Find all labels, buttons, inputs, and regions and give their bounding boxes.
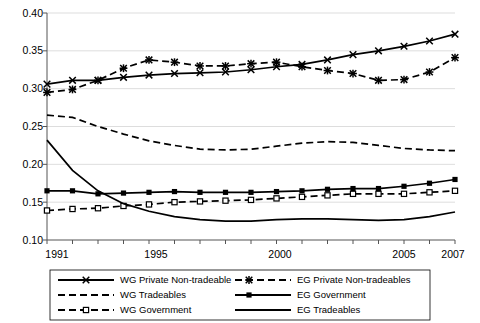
legend-swatch-wg-private-non-tradeable <box>58 277 114 284</box>
data-point-marker <box>222 62 230 70</box>
data-point-marker <box>171 58 179 66</box>
data-point-marker <box>83 307 88 312</box>
legend-item-wg-private-non-tradeable[interactable]: WG Private Non-tradeable <box>58 274 231 285</box>
data-point-marker <box>299 194 304 199</box>
legend-swatch-eg-private-non-tradeables <box>235 276 291 284</box>
legend-item-eg-private-non-tradeables[interactable]: EG Private Non-tradeables <box>235 274 411 285</box>
data-point-marker <box>95 206 100 211</box>
y-axis-labels: 0.40 0.35 0.30 0.25 0.20 0.15 0.10 <box>23 7 44 246</box>
data-point-marker <box>245 276 253 284</box>
data-point-marker <box>325 187 330 192</box>
data-point-marker <box>223 190 228 195</box>
legend-label: EG Tradeables <box>297 304 361 315</box>
data-point-marker <box>376 191 381 196</box>
data-point-marker <box>172 200 177 205</box>
data-point-marker <box>94 76 102 84</box>
data-point-marker <box>69 86 77 94</box>
data-point-marker <box>172 189 177 194</box>
series-eg-government <box>44 177 457 197</box>
data-point-marker <box>401 191 406 196</box>
data-point-marker <box>146 190 151 195</box>
legend-item-eg-tradeables[interactable]: EG Tradeables <box>235 304 361 315</box>
data-point-marker <box>401 184 406 189</box>
data-point-marker <box>44 208 49 213</box>
legend-label: WG Private Non-tradeable <box>120 274 231 285</box>
data-point-marker <box>248 190 253 195</box>
data-point-marker <box>43 89 51 97</box>
data-point-marker <box>324 67 332 75</box>
data-point-marker <box>247 60 255 68</box>
legend-label: WG Government <box>120 304 192 315</box>
data-point-marker <box>452 177 457 182</box>
data-point-marker <box>197 199 202 204</box>
data-point-marker <box>248 197 253 202</box>
data-point-marker <box>145 56 153 64</box>
data-point-marker <box>299 188 304 193</box>
legend-swatch-eg-government <box>235 292 291 297</box>
y-tick-label: 0.35 <box>23 44 44 56</box>
data-point-marker <box>146 202 151 207</box>
legend-item-eg-government[interactable]: EG Government <box>235 289 366 300</box>
data-point-marker <box>246 292 251 297</box>
data-point-marker <box>400 76 408 84</box>
data-point-marker <box>121 190 126 195</box>
data-point-marker <box>70 206 75 211</box>
series-line <box>47 34 455 84</box>
series-eg-tradeables <box>47 140 455 221</box>
data-point-marker <box>223 198 228 203</box>
data-point-marker <box>375 76 383 84</box>
legend-label: WG Tradeables <box>120 289 186 300</box>
x-tick-label: 1991 <box>45 248 69 260</box>
data-point-marker <box>44 188 49 193</box>
data-point-marker <box>426 68 434 76</box>
x-tick-label: 2007 <box>441 248 465 260</box>
series-wg-tradeables <box>47 115 455 151</box>
line-chart: 0.40 0.35 0.30 0.25 0.20 0.15 0.10 1991 … <box>0 0 480 323</box>
data-point-marker <box>196 62 204 70</box>
data-point-marker <box>452 188 457 193</box>
data-point-marker <box>273 58 281 66</box>
legend-swatch-wg-government <box>58 307 114 312</box>
y-tick-label: 0.15 <box>23 196 44 208</box>
x-tick-label: 2000 <box>268 248 292 260</box>
legend-item-wg-tradeables[interactable]: WG Tradeables <box>58 289 186 300</box>
data-point-marker <box>350 191 355 196</box>
data-point-marker <box>349 70 357 78</box>
y-tick-label: 0.10 <box>23 234 44 246</box>
data-point-marker <box>274 196 279 201</box>
grid-lines <box>47 13 455 202</box>
data-point-marker <box>298 63 306 71</box>
x-axis-ticks <box>47 240 455 244</box>
chart-container: 0.40 0.35 0.30 0.25 0.20 0.15 0.10 1991 … <box>0 0 480 323</box>
series-line <box>47 115 455 151</box>
data-point-marker <box>120 64 128 72</box>
data-point-marker <box>427 190 432 195</box>
data-point-marker <box>70 188 75 193</box>
series-line <box>47 140 455 221</box>
data-point-marker <box>325 193 330 198</box>
data-point-marker <box>197 190 202 195</box>
y-tick-label: 0.30 <box>23 82 44 94</box>
y-tick-label: 0.25 <box>23 120 44 132</box>
data-point-marker <box>451 54 459 62</box>
y-tick-label: 0.20 <box>23 158 44 170</box>
legend-item-wg-government[interactable]: WG Government <box>58 304 192 315</box>
data-point-marker <box>274 189 279 194</box>
y-tick-label: 0.40 <box>23 7 44 19</box>
series-lines <box>43 31 459 221</box>
series-eg-private-non-tradeables <box>43 54 459 97</box>
data-point-marker <box>427 181 432 186</box>
x-axis-labels: 1991 1995 2000 2005 2007 <box>45 248 465 260</box>
legend-label: EG Government <box>297 289 366 300</box>
data-point-marker <box>376 186 381 191</box>
data-point-marker <box>350 186 355 191</box>
legend-label: EG Private Non-tradeables <box>297 274 411 285</box>
x-tick-label: 2005 <box>392 248 416 260</box>
x-tick-label: 1995 <box>144 248 168 260</box>
series-wg-private-non-tradeable <box>44 31 459 88</box>
chart-legend: WG Private Non-tradeable WG Tradeables W… <box>50 270 430 320</box>
